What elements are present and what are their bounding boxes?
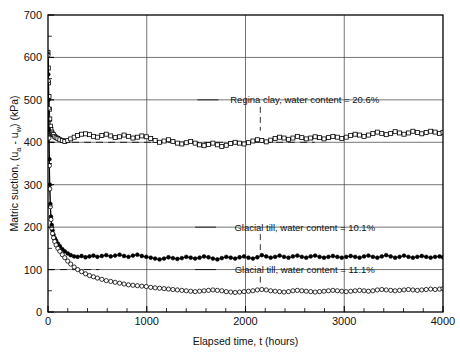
x-axis-tick-label: 3000 <box>332 315 356 327</box>
data-point-marker <box>237 290 241 294</box>
data-point-marker <box>300 136 304 140</box>
data-point-marker <box>273 289 277 293</box>
data-point-marker <box>49 217 53 221</box>
data-point-marker <box>295 288 299 292</box>
data-point-marker <box>389 131 393 135</box>
data-point-marker <box>135 253 139 257</box>
data-point-marker <box>100 254 104 258</box>
data-point-marker <box>197 289 201 293</box>
data-point-marker <box>193 290 197 294</box>
data-point-marker <box>344 290 348 294</box>
data-point-marker <box>193 257 197 261</box>
data-point-marker <box>131 136 135 140</box>
data-point-marker <box>76 255 80 259</box>
data-point-marker <box>144 135 148 139</box>
data-point-marker <box>389 255 393 259</box>
data-point-marker <box>224 143 228 147</box>
data-point-marker <box>295 254 299 258</box>
data-point-marker <box>193 141 197 145</box>
data-point-marker <box>122 133 126 137</box>
data-point-marker <box>198 143 202 147</box>
data-point-marker <box>140 284 144 288</box>
data-point-marker <box>273 255 277 259</box>
data-point-marker <box>286 290 290 294</box>
data-point-marker <box>215 143 219 147</box>
data-point-marker <box>140 254 144 258</box>
data-point-marker <box>433 255 437 259</box>
data-point-marker <box>255 255 259 259</box>
data-point-marker <box>358 133 362 137</box>
data-point-marker <box>309 136 313 140</box>
data-point-marker <box>429 287 433 291</box>
data-point-marker <box>380 255 384 259</box>
data-point-marker <box>309 255 313 259</box>
data-point-marker <box>180 256 184 260</box>
data-point-marker <box>135 135 139 139</box>
figure-background <box>0 0 460 353</box>
data-point-marker <box>207 255 211 259</box>
data-point-marker <box>144 255 148 259</box>
data-point-marker <box>220 256 224 260</box>
data-point-marker <box>277 290 281 294</box>
annotation-label: Glacial till, water content = 10.1% <box>234 222 375 233</box>
data-point-marker <box>340 256 344 260</box>
data-point-marker <box>180 142 184 146</box>
data-point-marker <box>122 282 126 286</box>
x-axis-tick-label: 0 <box>45 315 51 327</box>
data-point-marker <box>113 254 117 258</box>
data-point-marker <box>415 131 419 135</box>
data-point-marker <box>251 257 255 261</box>
data-point-marker <box>206 142 210 146</box>
data-point-marker <box>318 255 322 259</box>
data-point-marker <box>87 133 91 137</box>
data-point-marker <box>149 285 153 289</box>
data-point-marker <box>135 284 139 288</box>
data-point-marker <box>166 287 170 291</box>
data-point-marker <box>282 255 286 259</box>
chart-figure: 010002000300040000100200300400500600700E… <box>0 0 460 353</box>
data-point-marker <box>384 133 388 137</box>
data-point-marker <box>80 254 84 258</box>
data-point-marker <box>109 255 113 259</box>
data-point-marker <box>113 280 117 284</box>
data-point-marker <box>393 256 397 260</box>
data-point-marker <box>304 137 308 141</box>
data-point-marker <box>211 141 215 145</box>
data-point-marker <box>260 287 264 291</box>
data-point-marker <box>238 255 242 259</box>
x-axis-title: Elapsed time, t (hours) <box>193 335 299 347</box>
data-point-marker <box>331 288 335 292</box>
x-axis-tick-label: 2000 <box>233 315 257 327</box>
data-point-marker <box>269 138 273 142</box>
data-point-marker <box>286 137 290 141</box>
data-point-marker <box>420 132 424 136</box>
data-point-marker <box>233 257 237 261</box>
y-axis-tick-label: 100 <box>24 264 42 276</box>
data-point-marker <box>317 290 321 294</box>
data-point-marker <box>313 135 317 139</box>
data-point-marker <box>171 139 175 143</box>
data-point-marker <box>246 141 250 145</box>
data-point-marker <box>109 134 113 138</box>
data-point-marker <box>362 255 366 259</box>
data-point-marker <box>84 255 88 259</box>
data-point-marker <box>291 255 295 259</box>
data-point-marker <box>287 256 291 260</box>
data-point-marker <box>162 257 166 261</box>
data-point-marker <box>433 130 437 134</box>
data-point-marker <box>184 255 188 259</box>
data-point-marker <box>269 289 273 293</box>
data-point-marker <box>411 256 415 260</box>
data-point-marker <box>153 139 157 143</box>
data-point-marker <box>326 136 330 140</box>
data-point-marker <box>327 255 331 259</box>
data-point-marker <box>353 255 357 259</box>
data-point-marker <box>384 253 388 257</box>
y-axis-tick-label: 0 <box>36 306 42 318</box>
data-point-marker <box>371 289 375 293</box>
data-point-marker <box>264 255 268 259</box>
data-point-marker <box>104 253 108 257</box>
data-point-marker <box>224 290 228 294</box>
data-point-marker <box>380 287 384 291</box>
data-point-marker <box>255 288 259 292</box>
